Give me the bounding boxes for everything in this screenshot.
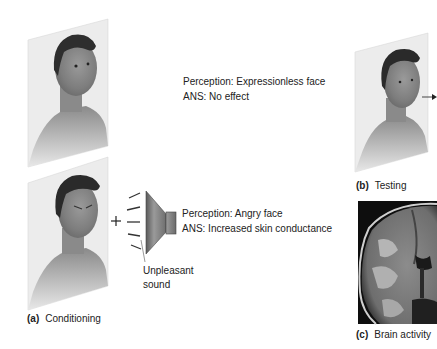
perception-expressionless-text: Perception: Expressionless face [183,75,325,89]
ans-skin-conductance-text: ANS: Increased skin conductance [182,222,332,236]
caption-panel-c-label: (c) [356,329,368,340]
ans-no-effect-text: ANS: No effect [183,90,249,104]
face-image-expressionless [28,19,108,167]
caption-panel-a: (a)Conditioning [27,313,101,324]
caption-panel-b-label: (b) [356,180,369,191]
unpleasant-sound-label-line1: Unpleasant [143,264,194,278]
face-image-angry [28,157,108,310]
caption-panel-b: (b)Testing [356,180,406,191]
speaker-icon [127,191,176,262]
caption-panel-c: (c)Brain activity [356,329,431,340]
plus-icon [111,216,121,226]
caption-panel-a-text: Conditioning [45,313,101,324]
face-image-testing [355,33,428,172]
unpleasant-sound-label-line2: sound [143,278,170,292]
figure-graphics [0,0,437,349]
perception-angry-text: Perception: Angry face [182,207,283,221]
brain-mri-image [358,201,437,324]
sound-leader-line [141,240,145,262]
caption-panel-b-text: Testing [375,180,407,191]
caption-panel-a-label: (a) [27,313,39,324]
caption-panel-c-text: Brain activity [374,329,431,340]
